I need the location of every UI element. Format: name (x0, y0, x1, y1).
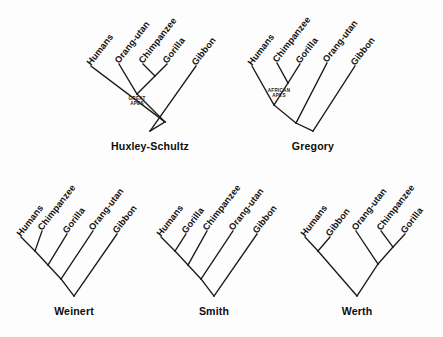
trees-canvas: HumansOrang-utanChimpanzeeGorillaGibbonG… (0, 0, 443, 337)
tree-name-smith: Smith (199, 305, 229, 317)
clade-label-huxley-schultz-great_apes: GREATAPES (129, 96, 146, 106)
tree-name-huxley-schultz: Huxley-Schultz (111, 140, 189, 152)
phylogenetic-figure: HumansOrang-utanChimpanzeeGorillaGibbonG… (0, 0, 443, 337)
tree-name-weinert: Weinert (54, 305, 94, 317)
tree-name-gregory: Gregory (292, 140, 334, 152)
tree-name-werth: Werth (342, 305, 373, 317)
